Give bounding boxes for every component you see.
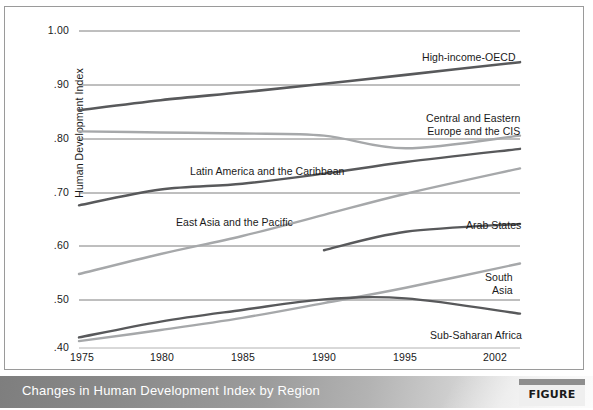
series-label: Sub-Saharan Africa — [430, 329, 522, 342]
series-label: Central and EasternEurope and the CIS — [426, 112, 520, 137]
figure-number-label: FIGURE 1.2 — [519, 385, 585, 408]
series-label: Arab States — [466, 219, 521, 232]
series-line — [79, 168, 520, 274]
chart-panel: Human Development Index 1.00.90.80.70.60… — [4, 6, 584, 370]
figure-number-tag: FIGURE 1.2 — [519, 379, 585, 406]
series-label: Latin America and the Caribbean — [190, 165, 344, 178]
series-lines — [79, 62, 520, 341]
series-label: SouthAsia — [485, 271, 513, 296]
series-label-line: Asia — [485, 284, 513, 297]
gridlines — [79, 31, 520, 348]
figure-container: Human Development Index 1.00.90.80.70.60… — [0, 0, 593, 410]
series-label-line: Europe and the CIS — [426, 125, 520, 138]
figure-caption-text: Changes in Human Development Index by Re… — [22, 383, 320, 398]
series-label-line: Central and Eastern — [426, 112, 520, 125]
series-label: East Asia and the Pacific — [176, 216, 293, 229]
series-label: High-income-OECD — [422, 51, 516, 64]
series-label-line: South — [485, 271, 513, 284]
figure-caption-bar: Changes in Human Development Index by Re… — [0, 376, 593, 408]
series-line — [79, 62, 520, 110]
